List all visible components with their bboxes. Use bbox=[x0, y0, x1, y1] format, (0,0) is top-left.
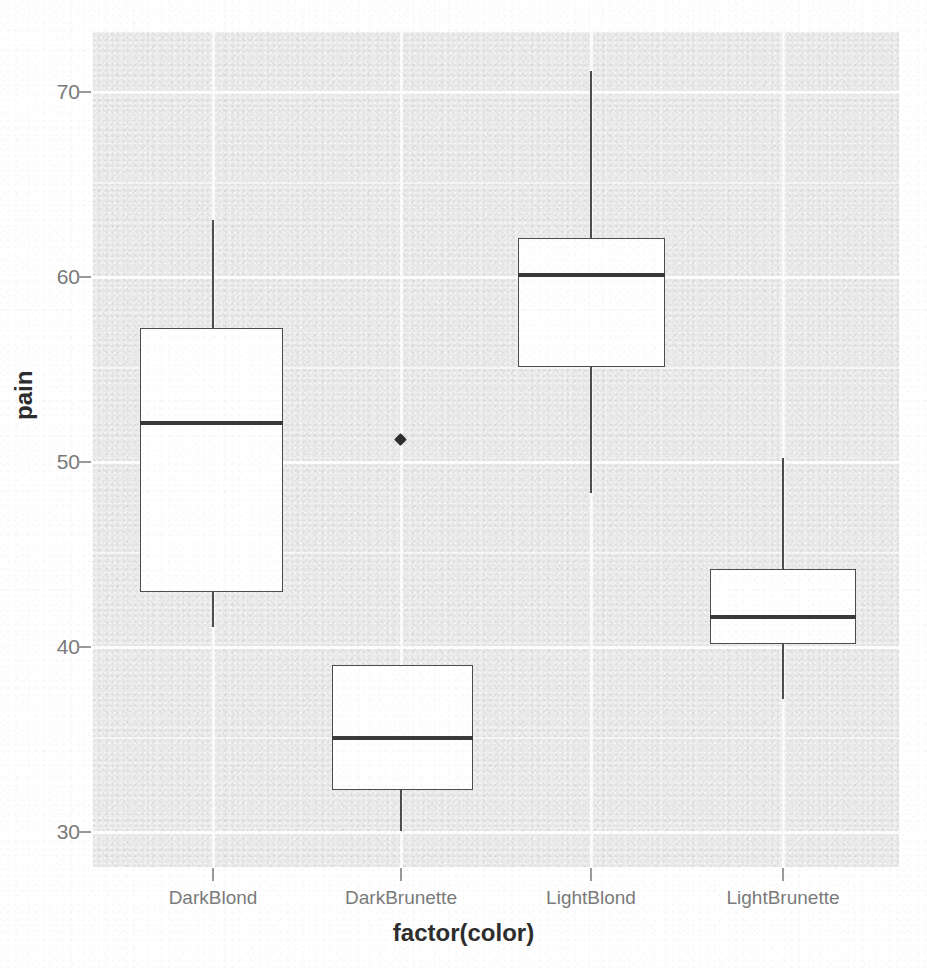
whisker-lower-darkblond bbox=[212, 592, 214, 627]
boxplot-figure: 70 60 50 40 30 DarkBlond DarkBrunette Li… bbox=[0, 0, 927, 968]
y-tick-label-60: 60 bbox=[32, 266, 80, 287]
y-tick-mark-60 bbox=[78, 276, 91, 278]
whisker-upper-darkblond bbox=[212, 220, 214, 328]
y-axis-title: pain bbox=[10, 371, 38, 420]
whisker-upper-lightblond bbox=[590, 71, 592, 238]
x-tick-mark-lightbrunette bbox=[782, 868, 784, 881]
median-darkblond bbox=[140, 421, 283, 425]
x-axis-title: factor(color) bbox=[0, 919, 927, 947]
gridline-vertical-lightbrunette bbox=[782, 32, 785, 867]
whisker-upper-lightbrunette bbox=[782, 458, 784, 569]
y-tick-label-40: 40 bbox=[32, 636, 80, 657]
x-tick-mark-lightblond bbox=[590, 868, 592, 881]
whisker-lower-lightbrunette bbox=[782, 644, 784, 699]
x-tick-label-lightbrunette: LightBrunette bbox=[683, 888, 883, 907]
box-lightblond bbox=[518, 238, 665, 367]
whisker-lower-lightblond bbox=[590, 367, 592, 493]
median-lightbrunette bbox=[710, 615, 856, 619]
y-tick-mark-50 bbox=[78, 461, 91, 463]
box-darkbrunette bbox=[332, 665, 473, 790]
x-tick-mark-darkblond bbox=[212, 868, 214, 881]
y-tick-mark-40 bbox=[78, 646, 91, 648]
x-tick-label-lightblond: LightBlond bbox=[491, 888, 691, 907]
median-lightblond bbox=[518, 273, 665, 277]
box-darkblond bbox=[140, 328, 283, 592]
x-tick-label-darkblond: DarkBlond bbox=[113, 888, 313, 907]
median-darkbrunette bbox=[332, 736, 473, 740]
y-tick-label-50: 50 bbox=[32, 451, 80, 472]
y-tick-mark-30 bbox=[78, 831, 91, 833]
plot-panel bbox=[93, 32, 899, 867]
x-tick-mark-darkbrunette bbox=[400, 868, 402, 881]
outlier-point-darkbrunette bbox=[394, 433, 407, 446]
x-tick-label-darkbrunette: DarkBrunette bbox=[301, 888, 501, 907]
whisker-lower-darkbrunette bbox=[400, 790, 402, 831]
box-lightbrunette bbox=[710, 569, 856, 644]
y-tick-label-30: 30 bbox=[32, 821, 80, 842]
y-tick-mark-70 bbox=[78, 91, 91, 93]
y-tick-label-70: 70 bbox=[32, 81, 80, 102]
